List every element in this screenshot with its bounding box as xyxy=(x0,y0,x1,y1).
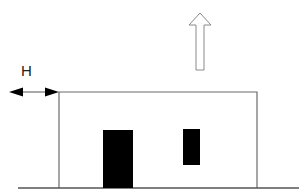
arrowhead-left-icon xyxy=(9,88,23,97)
height-dimension-arrow xyxy=(9,88,59,97)
house-diagram: H xyxy=(0,0,299,190)
upward-arrow-icon xyxy=(189,13,211,70)
window xyxy=(183,129,200,165)
house xyxy=(59,92,257,188)
door xyxy=(103,130,133,188)
arrowhead-right-icon xyxy=(45,88,59,97)
house-outline xyxy=(59,92,257,188)
dimension-label-h: H xyxy=(21,62,32,79)
